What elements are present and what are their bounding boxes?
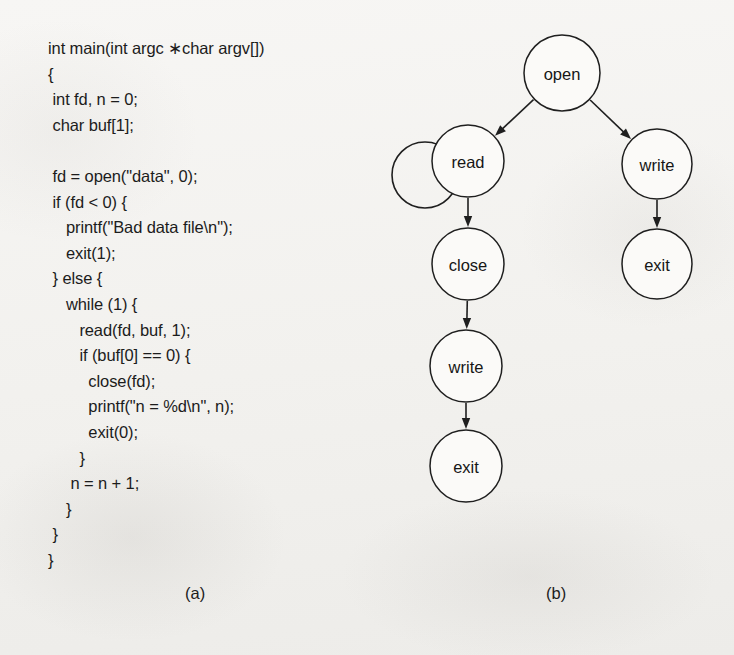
edge-arrowhead (463, 318, 471, 329)
graph-node-read[interactable]: read (432, 125, 504, 197)
node-label: read (451, 153, 484, 171)
node-label: exit (644, 256, 670, 274)
code-line: } (48, 497, 264, 523)
graph-edge (590, 100, 624, 133)
code-line: exit(1); (48, 241, 264, 267)
c-source-listing: int main(int argc ∗char argv[]){ int fd,… (48, 36, 264, 573)
graph-node-exit-left[interactable]: exit (430, 430, 502, 502)
graph-node-write-left[interactable]: write (430, 330, 502, 402)
code-line: exit(0); (48, 420, 264, 446)
code-line: read(fd, buf, 1); (48, 318, 264, 344)
code-line: char buf[1]; (48, 113, 264, 139)
edge-arrowhead (462, 418, 470, 429)
code-line (48, 138, 264, 164)
code-line: fd = open("data", 0); (48, 164, 264, 190)
code-line: { (48, 62, 264, 88)
code-panel: int main(int argc ∗char argv[]){ int fd,… (0, 0, 372, 655)
node-label: write (639, 156, 675, 174)
graph-panel: openreadwritecloseexitwriteexit (372, 0, 734, 655)
graph-nodes: openreadwritecloseexitwriteexit (430, 35, 692, 502)
code-line: } (48, 446, 264, 472)
code-line: } else { (48, 266, 264, 292)
code-line: if (fd < 0) { (48, 190, 264, 216)
code-line: int fd, n = 0; (48, 87, 264, 113)
scanned-page: int main(int argc ∗char argv[]){ int fd,… (0, 0, 734, 655)
node-label: write (448, 358, 484, 376)
edge-arrowhead (464, 216, 472, 227)
code-line: n = n + 1; (48, 471, 264, 497)
figure-label-b: (b) (546, 584, 566, 603)
graph-node-open[interactable]: open (524, 35, 600, 111)
code-line: while (1) { (48, 292, 264, 318)
code-line: } (48, 548, 264, 574)
figure-label-a: (a) (185, 584, 205, 603)
edge-arrowhead (653, 217, 661, 228)
system-call-state-diagram: openreadwritecloseexitwriteexit (372, 0, 734, 560)
graph-node-close[interactable]: close (432, 228, 504, 300)
code-line: close(fd); (48, 369, 264, 395)
code-line: } (48, 522, 264, 548)
node-label: exit (453, 458, 479, 476)
graph-node-exit-right[interactable]: exit (622, 229, 692, 299)
graph-edge (502, 100, 534, 130)
code-line: if (buf[0] == 0) { (48, 343, 264, 369)
code-line: printf("Bad data file\n"); (48, 215, 264, 241)
graph-node-write-right[interactable]: write (622, 129, 692, 199)
node-label: open (544, 65, 581, 83)
code-line: printf("n = %d\n", n); (48, 394, 264, 420)
node-label: close (449, 256, 488, 274)
code-line: int main(int argc ∗char argv[]) (48, 36, 264, 62)
